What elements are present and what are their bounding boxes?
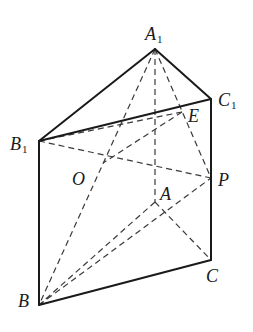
label-O: O (72, 169, 85, 189)
label-E: E (187, 106, 199, 126)
dashed-edge-B1-P (39, 141, 211, 178)
label-B: B (18, 291, 29, 311)
visible-edges (39, 49, 211, 305)
dashed-edge-A-C (155, 202, 211, 260)
label-C: C (206, 266, 219, 286)
label-A: A (159, 184, 172, 204)
dashed-edge-A1-P (155, 49, 211, 178)
label-B1: B1 (10, 134, 28, 155)
dashed-edge-A1-B (39, 49, 155, 305)
label-A1: A1 (144, 24, 163, 45)
label-P: P (217, 170, 229, 190)
label-C1: C1 (218, 90, 237, 111)
solid-edge-A1-C1 (155, 49, 211, 99)
dashed-edge-B-P (39, 178, 211, 305)
vertex-labels: A1B1C1ABCEPO (10, 24, 237, 311)
prism-diagram: A1B1C1ABCEPO (0, 0, 253, 332)
